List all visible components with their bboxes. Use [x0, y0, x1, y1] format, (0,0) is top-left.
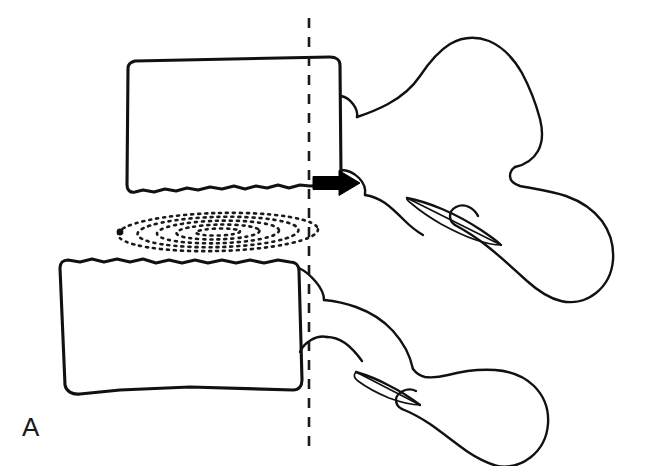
nucleus-pulposus-dot	[117, 229, 124, 236]
figure-background	[0, 0, 647, 466]
spine-line-drawing	[0, 0, 647, 466]
figure-panel-a: A	[0, 0, 647, 466]
panel-label: A	[22, 414, 40, 440]
